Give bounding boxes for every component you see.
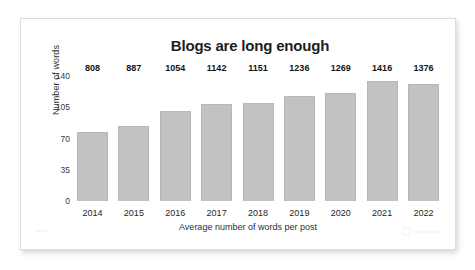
bar-group: 8872015: [118, 76, 149, 201]
y-tick-label: 35: [61, 165, 70, 175]
x-tick-label: 2014: [82, 208, 102, 218]
plot-area: 03570105140 8082014887201510542016114220…: [77, 76, 439, 201]
bar-group: 8082014: [77, 76, 108, 201]
bar-group: 11422017: [201, 76, 232, 201]
bar[interactable]: 1376: [408, 84, 439, 201]
bar-value-label: 1151: [248, 63, 268, 73]
bar-value-label: 1416: [372, 63, 392, 73]
bar-group: 13762022: [408, 76, 439, 201]
bar-group: 11512018: [243, 76, 274, 201]
x-tick-label: 2018: [248, 208, 268, 218]
circle-logo-icon: [402, 227, 411, 236]
bar-group: 12362019: [284, 76, 315, 201]
bar[interactable]: 887: [118, 126, 149, 201]
x-axis-title: Average number of words per post: [21, 222, 456, 232]
bar[interactable]: 1151: [243, 103, 274, 201]
bar[interactable]: 1236: [284, 96, 315, 201]
chart-title: Blogs are long enough: [21, 37, 456, 54]
x-tick-label: 2015: [124, 208, 144, 218]
bar[interactable]: 1269: [325, 93, 356, 201]
bar[interactable]: 1416: [367, 81, 398, 201]
x-tick-label: 2019: [289, 208, 309, 218]
x-tick-label: 2020: [331, 208, 351, 218]
bar-value-label: 1376: [413, 63, 433, 73]
watermark-left: •••••: [35, 227, 49, 234]
bar-value-label: 1142: [207, 63, 227, 73]
watermark-right-text: ••••••••••: [414, 228, 443, 235]
bar-value-label: 887: [126, 63, 141, 73]
bar-series: 8082014887201510542016114220171151201812…: [77, 76, 439, 201]
x-tick-label: 2022: [413, 208, 433, 218]
bar-group: 12692020: [325, 76, 356, 201]
y-tick-label: 70: [61, 134, 70, 144]
y-tick-label: 140: [56, 71, 70, 81]
bar-value-label: 1054: [165, 63, 185, 73]
y-tick-label: 0: [65, 196, 70, 206]
bar-value-label: 808: [85, 63, 100, 73]
x-tick-label: 2016: [165, 208, 185, 218]
bar[interactable]: 808: [77, 132, 108, 201]
chart-card: Blogs are long enough Number of words 03…: [20, 18, 456, 250]
x-tick-label: 2017: [207, 208, 227, 218]
bar-value-label: 1236: [289, 63, 309, 73]
y-tick-label: 105: [56, 102, 70, 112]
bar-group: 14162021: [367, 76, 398, 201]
bar[interactable]: 1054: [160, 111, 191, 201]
bar-group: 10542016: [160, 76, 191, 201]
bar[interactable]: 1142: [201, 104, 232, 201]
x-tick-label: 2021: [372, 208, 392, 218]
bar-value-label: 1269: [331, 63, 351, 73]
watermark-right: ••••••••••: [402, 227, 443, 236]
